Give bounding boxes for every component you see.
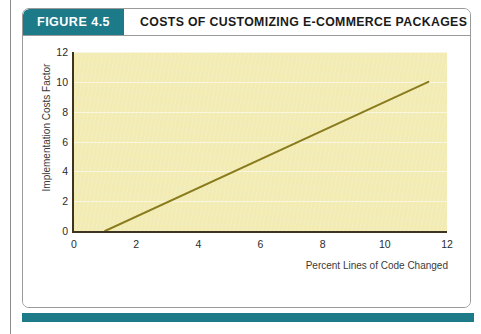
x-axis-tick-label: 4 bbox=[195, 238, 201, 250]
y-axis-tick-label: 4 bbox=[62, 165, 68, 177]
plot-area: 024681012 024681012 bbox=[72, 52, 447, 233]
chart-body: Implementation Costs Factor 024681012 02… bbox=[23, 36, 470, 308]
footer-rule bbox=[22, 313, 474, 322]
x-axis-tick-label: 12 bbox=[441, 238, 453, 250]
y-axis-title: Implementation Costs Factor bbox=[41, 43, 52, 213]
y-axis-tick-label: 10 bbox=[56, 76, 68, 88]
data-series-line bbox=[74, 52, 447, 231]
series-polyline bbox=[105, 82, 428, 231]
page-edge-rule bbox=[10, 0, 11, 334]
plot-inner bbox=[74, 52, 447, 231]
y-axis-tick-label: 12 bbox=[56, 46, 68, 58]
x-axis-tick-label: 6 bbox=[258, 238, 264, 250]
x-axis-tick-label: 0 bbox=[71, 238, 77, 250]
y-axis-tick-label: 2 bbox=[62, 195, 68, 207]
figure-header: FIGURE 4.5 COSTS OF CUSTOMIZING E-COMMER… bbox=[23, 9, 470, 36]
x-axis-tick-label: 2 bbox=[133, 238, 139, 250]
figure-card: FIGURE 4.5 COSTS OF CUSTOMIZING E-COMMER… bbox=[22, 8, 471, 308]
figure-title: COSTS OF CUSTOMIZING E-COMMERCE PACKAGES bbox=[124, 9, 470, 35]
y-axis-tick-label: 0 bbox=[62, 225, 68, 237]
y-axis-tick-label: 6 bbox=[62, 136, 68, 148]
x-axis-tick-label: 10 bbox=[379, 238, 391, 250]
y-axis-tick-label: 8 bbox=[62, 106, 68, 118]
x-axis-title: Percent Lines of Code Changed bbox=[306, 260, 448, 271]
figure-number-badge: FIGURE 4.5 bbox=[23, 9, 124, 35]
x-axis-tick-label: 8 bbox=[320, 238, 326, 250]
